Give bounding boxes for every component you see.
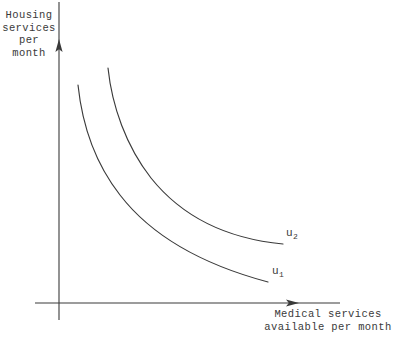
y-axis-label: Housing services per month [2,9,56,59]
plot-canvas [0,0,399,340]
indifference-curve-u1 [78,85,268,282]
curve-label-u1-base: u [272,265,279,277]
indifference-curve-figure: Housing services per month Medical servi… [0,0,399,340]
curve-label-u2-subscript: 2 [293,232,298,241]
curve-label-u2-base: u [286,227,293,239]
x-axis-label: Medical services available per month [258,308,398,333]
indifference-curve-u2 [108,68,283,244]
curve-label-u2: u2 [286,227,297,239]
curve-label-u1-subscript: 1 [279,270,284,279]
curve-label-u1: u1 [272,265,283,277]
